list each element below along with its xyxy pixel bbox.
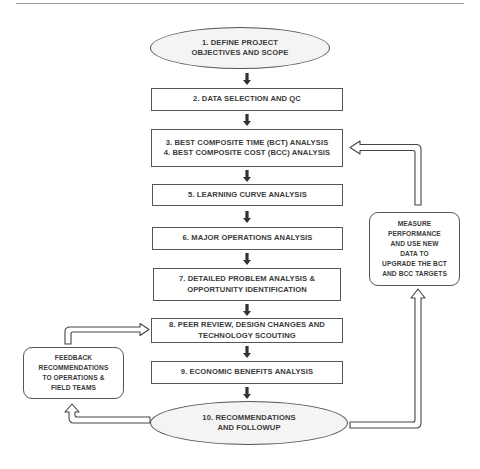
side-label: FIELD TEAMS [51, 383, 96, 393]
side-label: RECOMMENDATIONS [39, 363, 109, 373]
step-label: 6. MAJOR OPERATIONS ANALYSIS [183, 233, 313, 244]
step-label: 3. BEST COMPOSITE TIME (BCT) ANALYSIS [166, 138, 329, 149]
step-label: 1. DEFINE PROJECT [202, 38, 278, 49]
clipped-caption [120, 463, 450, 469]
step-3-4-bct-bcc-analysis: 3. BEST COMPOSITE TIME (BCT) ANALYSIS 4.… [151, 129, 343, 167]
side-label: FEEDBACK [55, 353, 92, 363]
down-arrow-icon [243, 304, 251, 316]
step-7-detailed-problem-analysis: 7. DETAILED PROBLEM ANALYSIS & OPPORTUNI… [153, 268, 341, 301]
side-label: TO OPERATIONS & [42, 373, 104, 383]
step-label: 9. ECONOMIC BENEFITS ANALYSIS [181, 367, 313, 378]
step-8-peer-review: 8. PEER REVIEW, DESIGN CHANGES AND TECHN… [151, 318, 343, 343]
down-arrow-icon [243, 387, 251, 399]
measure-performance-box: MEASURE PERFORMANCE AND USE NEW DATA TO … [369, 212, 460, 286]
step-10-recommendations: 10. RECOMMENDATIONS AND FOLLOWUP [150, 401, 348, 445]
step-label: TECHNOLOGY SCOUTING [198, 331, 296, 342]
hollow-elbow-arrow-icon [350, 141, 421, 205]
down-arrow-icon [243, 346, 251, 358]
down-arrow-icon [243, 211, 251, 223]
step-9-economic-benefits: 9. ECONOMIC BENEFITS ANALYSIS [151, 361, 343, 384]
step-1-define-objectives: 1. DEFINE PROJECT OBJECTIVES AND SCOPE [150, 27, 330, 69]
side-label: DATA TO [400, 249, 429, 259]
hollow-elbow-arrow-icon [65, 404, 150, 423]
step-label: 2. DATA SELECTION AND QC [193, 94, 301, 105]
down-arrow-icon [243, 170, 251, 182]
side-label: MEASURE [398, 219, 432, 229]
down-arrow-icon [243, 253, 251, 265]
step-5-learning-curve: 5. LEARNING CURVE ANALYSIS [152, 184, 343, 206]
side-label: PERFORMANCE [388, 229, 441, 239]
hollow-elbow-arrow-icon [350, 289, 425, 428]
side-label: AND BCC TARGETS [382, 269, 447, 279]
step-label: AND FOLLOWUP [217, 423, 280, 434]
step-6-major-operations: 6. MAJOR OPERATIONS ANALYSIS [152, 227, 343, 250]
down-arrow-icon [243, 114, 251, 126]
step-label: 10. RECOMMENDATIONS [202, 413, 295, 424]
feedback-recommendations-box: FEEDBACK RECOMMENDATIONS TO OPERATIONS &… [23, 347, 124, 399]
step-label: 5. LEARNING CURVE ANALYSIS [188, 190, 307, 201]
step-2-data-selection: 2. DATA SELECTION AND QC [151, 88, 343, 111]
step-label: 4. BEST COMPOSITE COST (BCC) ANALYSIS [164, 148, 330, 159]
step-label: OPPORTUNITY IDENTIFICATION [187, 285, 307, 296]
side-label: UPGRADE THE BCT [382, 259, 447, 269]
step-label: 7. DETAILED PROBLEM ANALYSIS & [179, 274, 315, 285]
hollow-elbow-arrow-icon [65, 324, 149, 345]
side-label: AND USE NEW [391, 239, 439, 249]
step-label: 8. PEER REVIEW, DESIGN CHANGES AND [169, 320, 325, 331]
step-label: OBJECTIVES AND SCOPE [191, 48, 288, 59]
down-arrow-icon [243, 73, 251, 85]
